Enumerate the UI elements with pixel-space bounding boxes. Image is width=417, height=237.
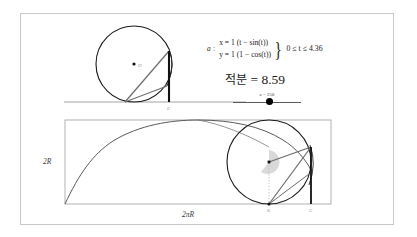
width-label-2piR: 2πR	[182, 210, 195, 219]
equation-object-name: a	[207, 44, 211, 53]
applet-frame: D E	[20, 13, 394, 225]
integral-equals: =	[250, 72, 258, 87]
equation-x: x = 1 (t − sin(t))	[219, 37, 271, 49]
parameter-slider[interactable]: a = 250	[232, 92, 302, 108]
equation-y: y = 1 (1 − cos(t))	[219, 49, 271, 61]
bottom-center-point[interactable]	[268, 161, 271, 164]
slider-handle[interactable]	[266, 98, 273, 105]
point-b-label: B	[267, 208, 270, 213]
top-base-point-label: E	[166, 106, 170, 111]
parameter-range: 0 ≤ t ≤ 4.36	[287, 44, 323, 53]
integral-readout: 적분 = 8.59	[225, 70, 285, 88]
cycloid-bounding-rect	[65, 120, 331, 204]
cycloid-curve-tail	[198, 120, 269, 147]
closing-brace: }	[275, 40, 282, 58]
parametric-equation-block[interactable]: a : x = 1 (t − sin(t)) y = 1 (1 − cos(t)…	[207, 26, 387, 71]
contact-point-b[interactable]	[268, 203, 271, 206]
integral-value: 8.59	[261, 72, 285, 87]
equation-colon: :	[213, 44, 215, 53]
equation-lines: x = 1 (t − sin(t)) y = 1 (1 − cos(t))	[219, 37, 271, 61]
screenshot-root: D E	[0, 0, 417, 237]
top-center-label: D	[137, 63, 142, 68]
height-label-2R: 2R	[43, 157, 52, 166]
top-chord-line	[125, 51, 169, 102]
figure-bottom-group: B G 2R 2πR	[43, 120, 331, 219]
slider-caption: a = 250	[232, 92, 302, 97]
top-center-point[interactable]	[132, 62, 135, 65]
point-g-label: G	[309, 208, 313, 213]
integral-label: 적분	[225, 73, 247, 87]
